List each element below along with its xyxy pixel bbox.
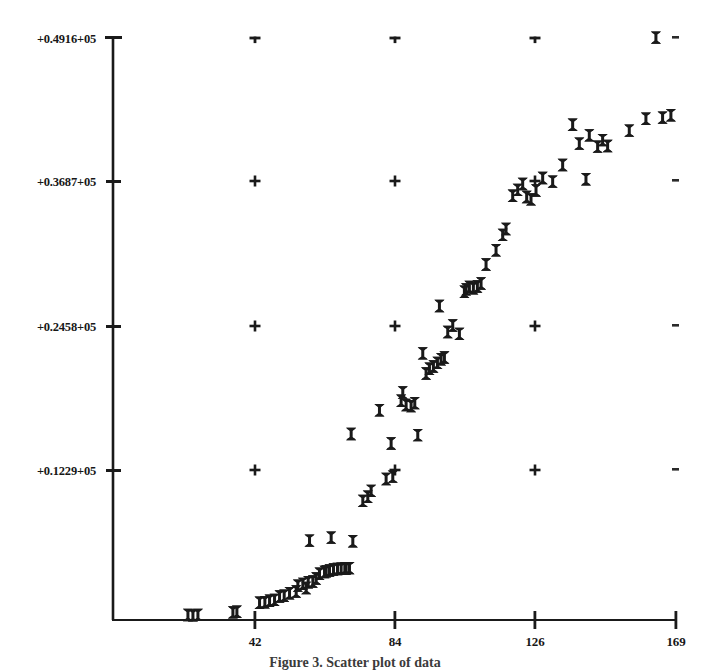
data-point <box>641 113 651 125</box>
scatter-plot-canvas <box>0 0 710 672</box>
data-point <box>346 428 356 440</box>
data-point <box>658 111 668 123</box>
y-tick-label-4: +0.4916+05 <box>0 32 96 47</box>
top-frame-ticks <box>250 37 541 44</box>
data-point <box>538 172 548 184</box>
data-point <box>574 137 584 149</box>
y-tick-label-3: +0.3687+05 <box>0 175 96 190</box>
data-point <box>491 244 501 256</box>
data-point <box>348 535 358 547</box>
x-tick-label-84: 84 <box>389 634 402 650</box>
data-point <box>454 328 464 340</box>
figure-caption: Figure 3. Scatter plot of data <box>0 655 710 672</box>
data-point <box>326 531 336 543</box>
data-point <box>381 473 391 485</box>
data-point <box>581 173 591 185</box>
data-point <box>481 258 491 270</box>
data-point <box>558 159 568 171</box>
data-point <box>584 129 594 141</box>
grid-cross-marks <box>250 176 541 476</box>
data-point <box>418 347 428 359</box>
x-tick-label-169: 169 <box>667 634 686 650</box>
figure-container: +0.4916+05 +0.3687+05 +0.2458+05 +0.1229… <box>0 0 710 672</box>
data-point <box>548 175 558 187</box>
data-point <box>434 300 444 312</box>
x-tick-label-126: 126 <box>526 634 545 650</box>
data-point <box>666 109 676 121</box>
y-tick-label-2: +0.2458+05 <box>0 320 96 335</box>
y-tick-label-1: +0.1229+05 <box>0 464 96 479</box>
data-point <box>624 124 634 136</box>
data-point <box>651 31 661 43</box>
data-point <box>386 437 396 449</box>
data-point <box>413 429 423 441</box>
x-tick-label-42: 42 <box>249 634 262 650</box>
data-point <box>568 119 578 131</box>
data-point <box>305 534 315 546</box>
right-edge-ticks <box>672 36 679 471</box>
data-point <box>374 404 384 416</box>
